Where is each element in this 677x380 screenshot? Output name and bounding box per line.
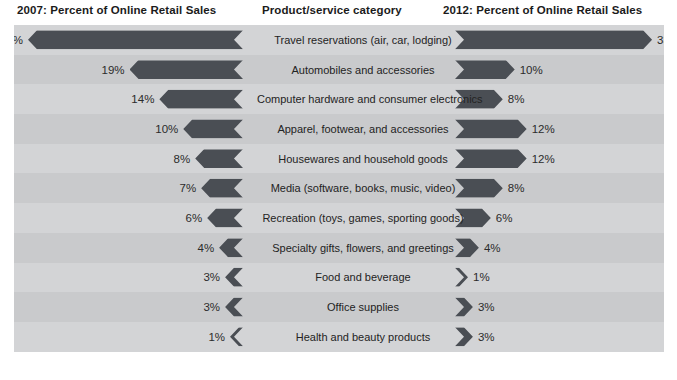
chart-row: 3%1%Food and beverage xyxy=(14,263,664,293)
chart-row: 36%33%Travel reservations (air, car, lod… xyxy=(14,25,664,55)
value-label-left: 6% xyxy=(186,212,203,224)
category-label: Travel reservations (air, car, lodging) xyxy=(257,34,469,46)
category-label: Housewares and household goods xyxy=(257,153,469,165)
bar-left xyxy=(159,90,243,109)
category-label: Computer hardware and consumer electroni… xyxy=(257,93,469,105)
category-label: Specialty gifts, flowers, and greetings xyxy=(257,242,469,254)
value-label-left: 14% xyxy=(131,93,154,105)
bar-left-fill xyxy=(207,208,243,227)
bar-right-fill xyxy=(455,30,652,49)
header-left-series: 2007: Percent of Online Retail Sales xyxy=(17,4,216,16)
chart-row: 10%12%Apparel, footwear, and accessories xyxy=(14,114,664,144)
value-label-left: 3% xyxy=(203,271,220,283)
category-label: Automobiles and accessories xyxy=(257,64,469,76)
bar-left-fill xyxy=(219,238,243,257)
bar-left-fill xyxy=(230,327,243,346)
column-headers: 2007: Percent of Online Retail Sales Pro… xyxy=(0,0,677,26)
bar-left xyxy=(195,149,243,168)
chart-row: 7%8%Media (software, books, music, video… xyxy=(14,173,664,203)
value-label-right: 12% xyxy=(532,123,555,135)
value-label-right: 33% xyxy=(657,34,664,46)
bar-left-fill xyxy=(195,149,243,168)
value-label-right: 10% xyxy=(520,64,543,76)
value-label-right: 3% xyxy=(478,301,495,313)
chart-row: 8%12%Housewares and household goods xyxy=(14,144,664,174)
value-label-right: 4% xyxy=(484,242,501,254)
category-label: Media (software, books, music, video) xyxy=(257,182,469,194)
value-label-left: 1% xyxy=(208,331,225,343)
value-label-left: 36% xyxy=(14,34,23,46)
bar-left-fill xyxy=(159,90,243,109)
chart-row: 14%8%Computer hardware and consumer elec… xyxy=(14,84,664,114)
bar-left-fill xyxy=(183,119,243,138)
value-label-left: 7% xyxy=(180,182,197,194)
bar-left-fill xyxy=(225,298,243,317)
value-label-left: 4% xyxy=(198,242,215,254)
bar-left xyxy=(201,179,243,198)
category-label: Apparel, footwear, and accessories xyxy=(257,123,469,135)
value-label-right: 8% xyxy=(508,93,525,105)
category-label: Food and beverage xyxy=(257,271,469,283)
category-label: Office supplies xyxy=(257,301,469,313)
value-label-left: 3% xyxy=(203,301,220,313)
tornado-chart: 2007: Percent of Online Retail Sales Pro… xyxy=(0,0,677,380)
value-label-right: 8% xyxy=(508,182,525,194)
bar-left xyxy=(207,208,243,227)
value-label-left: 10% xyxy=(155,123,178,135)
value-label-right: 6% xyxy=(496,212,513,224)
plot-panel: 36%33%Travel reservations (air, car, lod… xyxy=(14,25,664,352)
bar-left-fill xyxy=(28,30,243,49)
value-label-right: 3% xyxy=(478,331,495,343)
category-label: Recreation (toys, games, sporting goods) xyxy=(257,212,469,224)
bar-left-fill xyxy=(225,268,243,287)
category-label: Health and beauty products xyxy=(257,331,469,343)
chart-row: 3%3%Office supplies xyxy=(14,292,664,322)
bar-left xyxy=(130,60,243,79)
header-category-column: Product/service category xyxy=(262,4,402,16)
header-right-series: 2012: Percent of Online Retail Sales xyxy=(443,4,642,16)
value-label-left: 19% xyxy=(102,64,125,76)
chart-row: 1%3%Health and beauty products xyxy=(14,322,664,352)
chart-row: 6%6%Recreation (toys, games, sporting go… xyxy=(14,203,664,233)
bar-left xyxy=(225,268,243,287)
bar-right xyxy=(455,30,652,49)
value-label-right: 1% xyxy=(473,271,490,283)
chart-row: 19%10%Automobiles and accessories xyxy=(14,55,664,85)
bar-left-fill xyxy=(130,60,243,79)
bar-left-fill xyxy=(201,179,243,198)
bar-left xyxy=(183,119,243,138)
value-label-right: 12% xyxy=(532,153,555,165)
value-label-left: 8% xyxy=(174,153,191,165)
bar-left xyxy=(28,30,243,49)
bar-left xyxy=(225,298,243,317)
bar-left xyxy=(230,327,243,346)
chart-row: 4%4%Specialty gifts, flowers, and greeti… xyxy=(14,233,664,263)
bar-left xyxy=(219,238,243,257)
